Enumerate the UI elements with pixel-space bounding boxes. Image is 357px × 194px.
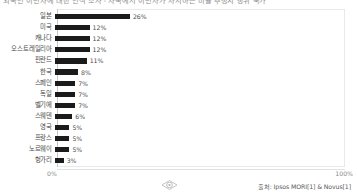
bar-track: 26% — [55, 11, 357, 22]
eye-icon — [161, 176, 178, 188]
bar-category-label: 노르웨이 — [0, 146, 55, 153]
bar-track: 6% — [55, 111, 357, 122]
bar-row: 스웨덴6% — [0, 111, 357, 122]
bar — [55, 69, 78, 74]
bar-category-label: 핀란드 — [0, 57, 55, 64]
bar-category-label: 캐나다 — [0, 35, 55, 42]
bar-value-label: 6% — [75, 113, 85, 120]
bar-category-label: 프랑스 — [0, 135, 55, 142]
bar — [55, 81, 75, 86]
bar-track: 5% — [55, 122, 357, 133]
bar-row: 프랑스5% — [0, 133, 357, 144]
bar-rows: 일본26%미국12%캐나다12%오스트레일리아12%핀란드11%한국8%스페인7… — [0, 11, 357, 166]
bar-track: 3% — [55, 155, 357, 166]
bar-category-label: 오스트레일리아 — [0, 46, 55, 53]
bar — [55, 147, 69, 152]
bar-track: 5% — [55, 133, 357, 144]
bar-track: 8% — [55, 66, 357, 77]
bar-value-label: 7% — [78, 80, 88, 87]
bar-track: 11% — [55, 55, 357, 66]
x-axis-tick-max: 100% — [335, 170, 353, 178]
bar-category-label: 한국 — [0, 69, 55, 76]
bar-row: 일본26% — [0, 11, 357, 22]
bar — [55, 92, 75, 97]
bar — [55, 125, 69, 130]
x-axis: 0% 100% — [0, 169, 357, 179]
bar-value-label: 5% — [72, 135, 82, 142]
bar-value-label: 12% — [93, 35, 107, 42]
bar-track: 5% — [55, 144, 357, 155]
bar — [55, 136, 69, 141]
source-attribution: 출처: Ipsos MORI[1] & Novus[1] — [258, 183, 351, 191]
bar-value-label: 12% — [93, 46, 107, 53]
bar-track: 12% — [55, 22, 357, 33]
bar-category-label: 영국 — [0, 124, 55, 131]
bar-category-label: 벨기에 — [0, 102, 55, 109]
bar-track: 7% — [55, 100, 357, 111]
bar-category-label: 스페인 — [0, 80, 55, 87]
bar-value-label: 3% — [67, 157, 77, 164]
x-axis-rule — [57, 169, 345, 170]
bar-value-label: 7% — [78, 102, 88, 109]
bar-row: 캐나다12% — [0, 33, 357, 44]
bar-value-label: 5% — [72, 146, 82, 153]
bar-value-label: 5% — [72, 124, 82, 131]
bar-value-label: 7% — [78, 91, 88, 98]
bar-track: 7% — [55, 89, 357, 100]
bar-row: 한국8% — [0, 66, 357, 77]
bar-category-label: 미국 — [0, 24, 55, 31]
bar — [55, 103, 75, 108]
bar — [55, 36, 90, 41]
bar-row: 노르웨이5% — [0, 144, 357, 155]
bar-row: 독일7% — [0, 89, 357, 100]
bar — [55, 158, 64, 163]
bar-row: 헝가리3% — [0, 155, 357, 166]
bar-track: 7% — [55, 78, 357, 89]
bar-row: 핀란드11% — [0, 55, 357, 66]
bar-category-label: 독일 — [0, 91, 55, 98]
chart-title-strip: 외국인 이민자에 대한 인식 조사 - 자국에서 이민자가 차지하는 비율 추정… — [0, 0, 357, 8]
bar-chart: 일본26%미국12%캐나다12%오스트레일리아12%핀란드11%한국8%스페인7… — [0, 9, 357, 169]
bar-row: 미국12% — [0, 22, 357, 33]
bar — [55, 14, 130, 19]
bar-row: 스페인7% — [0, 78, 357, 89]
bar-value-label: 12% — [93, 24, 107, 31]
bar-row: 벨기에7% — [0, 100, 357, 111]
page-title: 외국인 이민자에 대한 인식 조사 - 자국에서 이민자가 차지하는 비율 추정… — [3, 0, 266, 5]
bar — [55, 25, 90, 30]
bar-row: 영국5% — [0, 122, 357, 133]
bar-category-label: 일본 — [0, 13, 55, 20]
bar-row: 오스트레일리아12% — [0, 44, 357, 55]
bar-track: 12% — [55, 44, 357, 55]
bar-value-label: 11% — [90, 57, 104, 64]
bar-track: 12% — [55, 33, 357, 44]
bar-category-label: 스웨덴 — [0, 113, 55, 120]
bar-value-label: 8% — [81, 69, 91, 76]
bar — [55, 114, 72, 119]
bar-value-label: 26% — [133, 13, 147, 20]
bar-category-label: 헝가리 — [0, 157, 55, 164]
bar — [55, 47, 90, 52]
x-axis-tick-min: 0% — [47, 170, 57, 178]
bar — [55, 58, 87, 63]
